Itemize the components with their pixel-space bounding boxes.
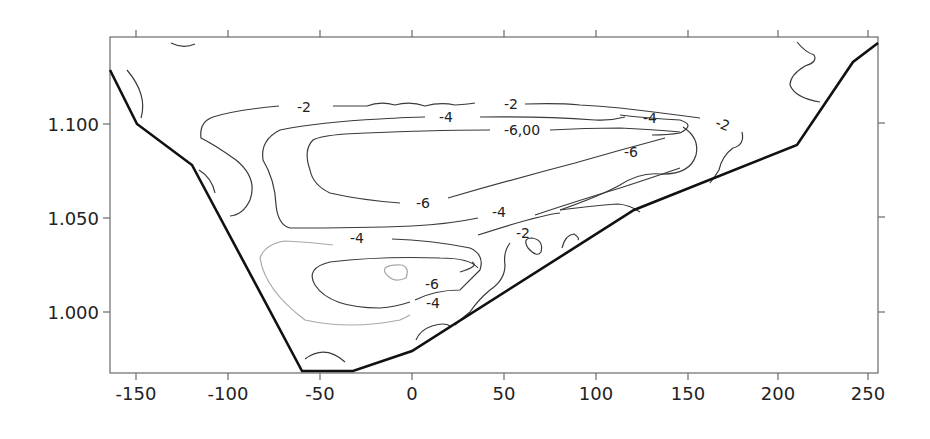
x-tick-label: 200 <box>761 383 795 404</box>
contour-label: -2 <box>516 225 530 241</box>
contour-label: -4 <box>439 109 453 125</box>
contour-label: -2 <box>713 114 732 134</box>
contour-lines <box>127 42 820 362</box>
contour-label: -6 <box>624 144 638 160</box>
contour-label: -4 <box>492 204 506 220</box>
x-axis-bottom: -150 -100 -50 0 50 100 150 200 250 <box>116 373 886 404</box>
x-tick-label: -50 <box>305 383 334 404</box>
contour-label: -6 <box>416 195 430 211</box>
contour-label: -4 <box>643 110 657 126</box>
y-tick-label: 1.000 <box>47 302 99 323</box>
contour-label: -6,00 <box>504 122 540 138</box>
x-tick-label: 50 <box>493 383 516 404</box>
y-axis-right <box>878 123 885 312</box>
x-tick-label: 0 <box>406 383 417 404</box>
contour-labels: -2 -2 -4 -4 -6,00 -2 -6 -6 -4 -2 -4 -6 -… <box>297 96 732 311</box>
contour-label: -2 <box>504 96 518 112</box>
contour-chart: -150 -100 -50 0 50 100 150 200 250 1.100… <box>0 0 930 439</box>
y-tick-label: 1.100 <box>47 114 99 135</box>
x-tick-label: 250 <box>851 383 885 404</box>
contour-label: -4 <box>350 230 364 246</box>
y-axis-left: 1.100 1.050 1.000 <box>47 114 110 323</box>
x-tick-label: 150 <box>671 383 705 404</box>
x-tick-label: -100 <box>208 383 249 404</box>
x-axis-top <box>136 30 868 37</box>
contour-label: -4 <box>426 295 440 311</box>
contour-label: -6 <box>425 276 439 292</box>
contour-label: -2 <box>297 99 311 115</box>
x-tick-label: -150 <box>116 383 157 404</box>
y-tick-label: 1.050 <box>47 208 99 229</box>
x-tick-label: 100 <box>579 383 613 404</box>
